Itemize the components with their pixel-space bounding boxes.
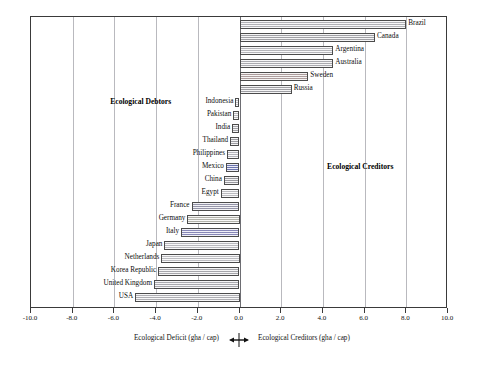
x-tick-label-6: 6.0 [359,314,368,322]
x-tick-label--8: -8.0 [66,314,77,322]
bar-pakistan [233,111,239,120]
bar-row: Sweden [31,71,446,84]
bar-india [232,124,239,133]
bar-netherlands [161,254,239,263]
x-tick--4 [155,308,156,313]
bar-row: Pakistan [31,110,446,123]
x-tick-2 [280,308,281,313]
plot-area: BrazilCanadaArgentinaAustraliaSwedenRuss… [30,16,447,308]
bar-label-philippines: Philippines [193,149,227,158]
x-tick-label-0: 0.0 [234,314,243,322]
bar-row: Germany [31,214,446,227]
axis-label-creditors: Ecological Creditors (gha / cap) [258,334,350,342]
annotation-ecological-debtors: Ecological Debtors [110,97,171,106]
bar-russia [240,85,292,94]
bar-germany [187,215,239,224]
bar-label-canada: Canada [375,32,399,41]
bar-label-france: France [170,201,192,210]
bar-argentina [240,46,334,55]
bar-row: Egypt [31,188,446,201]
bar-france [192,202,240,211]
double-arrow-icon [229,333,249,347]
x-tick--8 [72,308,73,313]
bar-canada [240,33,376,42]
bar-row: USA [31,292,446,305]
bar-philippines [227,150,240,159]
x-tick-label--10: -10.0 [23,314,38,322]
bar-brazil [240,20,407,29]
bar-row: France [31,201,446,214]
bar-row: Brazil [31,19,446,32]
bar-label-germany: Germany [159,214,188,223]
bar-label-pakistan: Pakistan [207,110,233,119]
chart-figure: BrazilCanadaArgentinaAustraliaSwedenRuss… [0,0,477,368]
x-tick-label-2: 2.0 [276,314,285,322]
bar-label-china: China [205,175,224,184]
x-tick--6 [113,308,114,313]
bar-row: United Kingdom [31,279,446,292]
x-tick-label--2: -2.0 [191,314,202,322]
x-tick-0 [239,308,240,313]
bar-label-italy: Italy [166,227,181,236]
x-tick-8 [405,308,406,313]
bar-label-brazil: Brazil [406,19,426,28]
x-tick-label-8: 8.0 [401,314,410,322]
bar-korea-republic [158,267,239,276]
bar-label-egypt: Egypt [202,188,221,197]
bar-label-russia: Russia [292,84,313,93]
bar-label-united-kingdom: United Kingdom [103,279,154,288]
x-tick-4 [322,308,323,313]
bar-label-thailand: Thailand [203,136,231,145]
bar-italy [181,228,239,237]
bar-row: Canada [31,32,446,45]
bar-label-korea-republic: Korea Republic [111,266,158,275]
bar-row: Korea Republic [31,266,446,279]
x-tick-label-4: 4.0 [318,314,327,322]
x-tick-label-10: 10.0 [441,314,453,322]
axis-label-deficit: Ecological Deficit (gha / cap) [134,334,219,342]
bar-label-usa: USA [119,292,135,301]
bar-row: China [31,175,446,188]
bar-egypt [221,189,240,198]
x-tick--2 [197,308,198,313]
bar-row: Australia [31,58,446,71]
bar-row: Netherlands [31,253,446,266]
bar-row: Italy [31,227,446,240]
bar-row: Argentina [31,45,446,58]
bar-row: India [31,123,446,136]
bar-row: Russia [31,84,446,97]
x-tick-label--4: -4.0 [150,314,161,322]
bar-label-sweden: Sweden [308,71,333,80]
bar-row: Thailand [31,136,446,149]
x-tick-6 [364,308,365,313]
bar-label-japan: Japan [146,240,164,249]
bar-japan [164,241,239,250]
bar-united-kingdom [154,280,239,289]
annotation-ecological-creditors: Ecological Creditors [327,162,393,171]
x-tick-label--6: -6.0 [108,314,119,322]
bar-row: Indonesia [31,97,446,110]
bar-row: Philippines [31,149,446,162]
bar-label-argentina: Argentina [333,45,364,54]
bar-sweden [240,72,309,81]
x-tick-10 [447,308,448,313]
bar-australia [240,59,334,68]
bar-china [224,176,240,185]
bar-label-mexico: Mexico [202,162,226,171]
bar-row: Japan [31,240,446,253]
bar-mexico [226,163,240,172]
bar-thailand [230,137,239,146]
bar-usa [135,293,239,302]
bar-indonesia [235,98,239,107]
bar-label-indonesia: Indonesia [205,97,235,106]
bar-label-australia: Australia [333,58,361,67]
bar-label-india: India [215,123,232,132]
x-tick--10 [30,308,31,313]
bar-label-netherlands: Netherlands [125,253,162,262]
